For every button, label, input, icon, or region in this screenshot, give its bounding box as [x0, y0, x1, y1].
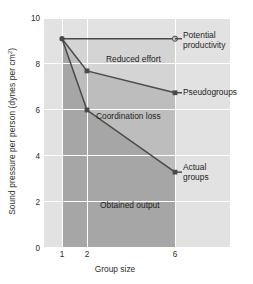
region-label-coordination-loss: Coordination loss	[96, 111, 161, 121]
x-tick-6: 6	[165, 250, 185, 259]
marker-actual-2	[85, 108, 90, 113]
y-axis-title-tail: )	[7, 48, 17, 51]
callout-leaders	[175, 39, 182, 172]
y-tick-6: 6	[20, 107, 40, 115]
x-axis-title: Group size	[40, 264, 190, 274]
chart-figure: Sound pressure per person (dynes per cm2…	[0, 0, 253, 284]
callout-potential-productivity: Potential productivity	[183, 31, 225, 50]
region-label-obtained-output: Obtained output	[100, 200, 160, 210]
y-tick-8: 8	[20, 61, 40, 69]
x-tick-2: 2	[77, 250, 97, 259]
callout-pseudogroups: Pseudogroups	[183, 88, 237, 98]
callout-potential-line2: productivity	[183, 41, 225, 51]
y-axis-title-text: Sound pressure per person (dynes per cm	[7, 54, 17, 215]
marker-origin	[59, 36, 64, 41]
plot-area: Reduced effort Coordination loss Obtaine…	[44, 18, 230, 248]
y-tick-2: 2	[20, 199, 40, 207]
y-tick-10: 10	[20, 15, 40, 23]
callout-actual-line2: groups	[183, 173, 209, 183]
y-tick-4: 4	[20, 153, 40, 161]
y-tick-0: 0	[20, 245, 40, 253]
callout-pseudogroups-line1: Pseudogroups	[183, 88, 237, 98]
y-axis-title-exponent: 2	[7, 51, 13, 54]
callout-actual-groups: Actual groups	[183, 163, 209, 182]
marker-pseudo-2	[85, 69, 90, 74]
y-axis-ticks: 0 2 4 6 8 10	[18, 0, 40, 284]
chart-overlay	[44, 18, 230, 248]
region-label-reduced-effort: Reduced effort	[106, 54, 161, 64]
x-tick-1: 1	[52, 250, 72, 259]
y-axis-title: Sound pressure per person (dynes per cm2…	[7, 15, 18, 247]
